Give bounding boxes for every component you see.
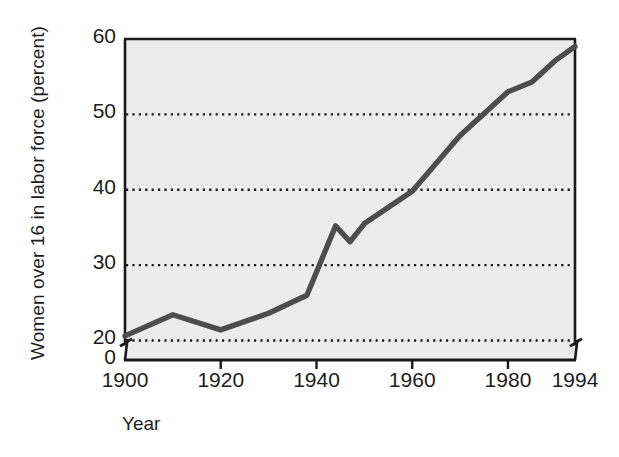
- x-axis-title: Year: [122, 413, 160, 435]
- x-tick-label-1940: 1940: [271, 368, 361, 392]
- y-tick-label-40: 40: [72, 175, 116, 199]
- chart-figure: 02030405060 Women over 16 in labor force…: [0, 0, 619, 457]
- y-axis-title: Women over 16 in labor force (percent): [27, 13, 49, 373]
- y-axis-tick-labels: 02030405060: [60, 0, 116, 400]
- x-tick-label-1960: 1960: [367, 368, 457, 392]
- x-tick-label-1994: 1994: [530, 368, 619, 392]
- x-tick-label-1900: 1900: [80, 368, 170, 392]
- y-tick-label-60: 60: [72, 24, 116, 48]
- y-tick-label-30: 30: [72, 250, 116, 274]
- x-tick-label-1920: 1920: [176, 368, 266, 392]
- y-tick-label-20: 20: [72, 325, 116, 349]
- y-tick-label-50: 50: [72, 99, 116, 123]
- plot-background: [125, 39, 575, 360]
